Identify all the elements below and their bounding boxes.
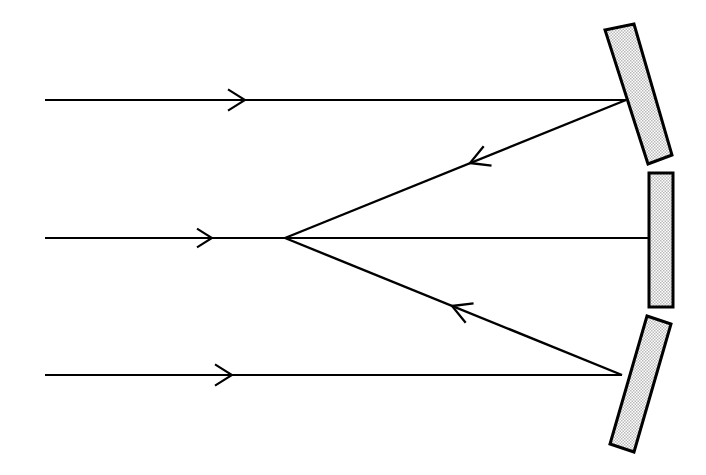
mirror-middle: [649, 173, 673, 307]
ray-diagram-figure: [0, 0, 706, 475]
optics-ray-diagram-canvas: [0, 0, 706, 475]
